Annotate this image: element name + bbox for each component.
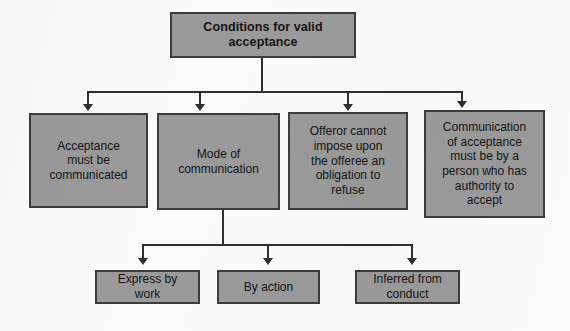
arrowhead-to-acceptance-must-be-communicated (83, 104, 93, 111)
node-acceptance-must-be-communicated[interactable]: Acceptance must be communicated (29, 113, 148, 208)
node-communication-by-authorised-person[interactable]: Communication of acceptance must be by a… (424, 110, 545, 218)
node-express-by-work[interactable]: Express by work (95, 270, 200, 304)
arrowhead-to-communication-by-authorised-person (457, 101, 467, 108)
node-mode-of-communication[interactable]: Mode of communication (157, 113, 280, 210)
node-by-action[interactable]: By action (217, 270, 320, 304)
arrowhead-to-mode-of-communication (195, 104, 205, 111)
node-label: Mode of communication (178, 147, 259, 176)
node-label: Express by work (118, 272, 177, 301)
node-offeror-cannot-impose[interactable]: Offeror cannot impose upon the offeree a… (288, 112, 408, 210)
connector-mode-of-communication-stem (222, 210, 224, 245)
node-label: Offeror cannot impose upon the offeree a… (310, 124, 387, 197)
arrowhead-to-inferred-from-conduct (407, 258, 417, 265)
node-label: Acceptance must be communicated (49, 139, 127, 183)
arrowhead-to-offeror-cannot-impose (343, 104, 353, 111)
node-inferred-from-conduct[interactable]: Inferred from conduct (355, 270, 460, 304)
connector-root-stem (261, 58, 263, 92)
arrowhead-to-express-by-work (138, 258, 148, 265)
node-label: Conditions for valid acceptance (203, 20, 322, 51)
connector-level2-bus (87, 91, 463, 93)
node-label: Communication of acceptance must be by a… (442, 120, 527, 208)
arrowhead-to-by-action (263, 258, 273, 265)
node-label: By action (244, 280, 293, 295)
connector-level3-bus (142, 244, 412, 246)
node-label: Inferred from conduct (373, 272, 442, 301)
flowchart-canvas: Conditions for valid acceptance Acceptan… (0, 0, 570, 331)
node-conditions-for-valid-acceptance[interactable]: Conditions for valid acceptance (170, 12, 356, 58)
